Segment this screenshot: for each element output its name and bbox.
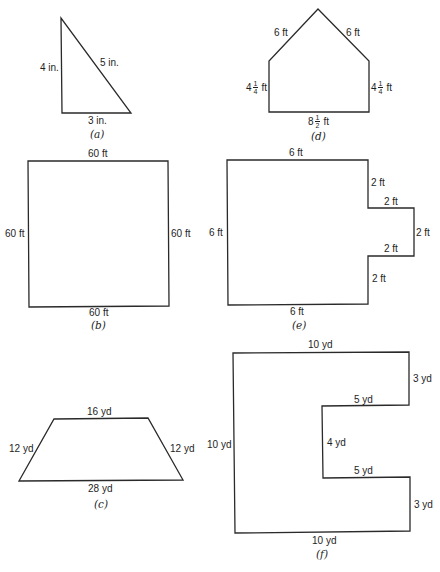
figure-d-left-denominator: 4 <box>254 88 258 95</box>
figure-e-bottom-label: 6 ft <box>290 307 304 317</box>
geometry-figures-page: 4 in. 5 in. 3 in. (a) 6 ft 6 ft 4 1 4 ft… <box>0 0 440 572</box>
figure-f-right-upper-label: 3 yd <box>413 374 432 384</box>
figure-f-notch-inner-label: 4 yd <box>327 438 346 448</box>
figure-f-notch-bottom-label: 5 yd <box>354 466 373 476</box>
figure-d-right-unit: ft <box>386 83 392 93</box>
figure-e-tab-bottom-label: 2 ft <box>384 244 398 254</box>
figure-b-caption: (b) <box>91 320 106 331</box>
figure-f-c-shape <box>233 352 410 533</box>
figure-d-left-numerator: 1 <box>253 80 259 88</box>
figure-b-right-label: 60 ft <box>171 229 190 239</box>
figure-d-left-unit: ft <box>261 83 267 93</box>
figure-d-right-denominator: 4 <box>379 88 383 95</box>
figure-b-bottom-label: 60 ft <box>89 308 108 318</box>
figure-d-right-fraction: 1 4 <box>378 80 384 95</box>
figure-d-bottom-numerator: 1 <box>315 114 321 122</box>
figure-f-caption: (f) <box>316 549 328 560</box>
figure-e-tab-right-label: 2 ft <box>416 228 430 238</box>
figure-f-top-label: 10 yd <box>308 340 332 350</box>
figure-d-caption: (d) <box>311 131 326 142</box>
figure-b-left-label: 60 ft <box>5 229 24 239</box>
figure-e-right-upper-label: 2 ft <box>371 178 385 188</box>
figure-a-caption: (a) <box>90 129 104 140</box>
figure-e-right-lower-label: 2 ft <box>372 274 386 284</box>
figure-c-left-label: 12 yd <box>9 444 33 454</box>
figure-c-bottom-label: 28 yd <box>88 484 112 494</box>
figure-d-bottom-label: 8 1 2 ft <box>308 114 329 129</box>
figure-f-bottom-label: 10 yd <box>312 536 336 546</box>
figure-c-right-label: 12 yd <box>170 444 194 454</box>
figure-d-left-whole: 4 <box>246 83 252 93</box>
figure-b-top-label: 60 ft <box>88 149 107 159</box>
figure-d-roof-left-label: 6 ft <box>274 28 288 38</box>
figure-a-left-label: 4 in. <box>40 63 59 73</box>
figure-d-roof-right-label: 6 ft <box>346 28 360 38</box>
figure-d-pentagon <box>269 9 369 112</box>
figure-d-bottom-unit: ft <box>323 117 329 127</box>
figure-d-left-label: 4 1 4 ft <box>246 80 267 95</box>
figure-d-bottom-fraction: 1 2 <box>315 114 321 129</box>
figure-d-right-whole: 4 <box>371 83 377 93</box>
figure-d-bottom-whole: 8 <box>308 117 314 127</box>
figure-e-caption: (e) <box>292 320 306 331</box>
figure-d-right-numerator: 1 <box>378 80 384 88</box>
figure-a-hypotenuse-label: 5 in. <box>100 58 119 68</box>
figure-c-trapezoid <box>19 418 183 481</box>
figure-d-right-label: 4 1 4 ft <box>371 80 392 95</box>
figure-f-notch-top-label: 5 yd <box>354 395 373 405</box>
figure-f-left-label: 10 yd <box>207 440 231 450</box>
figure-e-top-label: 6 ft <box>289 148 303 158</box>
figure-d-bottom-denominator: 2 <box>316 122 320 129</box>
figure-c-caption: (c) <box>94 499 108 510</box>
figure-f-right-lower-label: 3 yd <box>414 500 433 510</box>
figure-e-tab-top-label: 2 ft <box>384 197 398 207</box>
figure-b-square <box>28 161 169 307</box>
figure-a-bottom-label: 3 in. <box>88 116 107 126</box>
figure-e-left-label: 6 ft <box>209 228 223 238</box>
figure-d-left-fraction: 1 4 <box>253 80 259 95</box>
figure-c-top-label: 16 yd <box>87 407 111 417</box>
figure-a-triangle <box>61 18 131 113</box>
